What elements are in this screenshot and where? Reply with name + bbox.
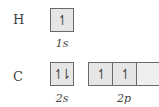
spin-up-arrow-icon: ↿: [97, 66, 105, 82]
subshell-label-2p: 2p: [88, 92, 159, 105]
orbital-box-2p-y: ↿: [112, 62, 136, 86]
spin-up-arrow-icon: ↿: [58, 12, 66, 28]
orbital-box-1s: ↿: [50, 8, 74, 32]
spin-pair-arrows-icon: ↿⇂: [54, 66, 70, 82]
orbital-box-2p-x: ↿: [88, 62, 112, 86]
orbital-group-2p: ↿ ↿: [88, 62, 159, 86]
orbital-box-2p-z: [136, 62, 159, 86]
element-symbol-h: H: [13, 13, 24, 26]
subshell-label-2s: 2s: [50, 92, 74, 105]
orbital-box-2s: ↿⇂: [50, 62, 74, 86]
subshell-label-1s: 1s: [50, 37, 74, 50]
element-symbol-c: C: [13, 70, 23, 83]
spin-up-arrow-icon: ↿: [121, 66, 129, 82]
